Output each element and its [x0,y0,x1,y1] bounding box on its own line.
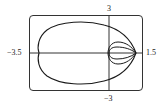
x-min-label: −3.5 [7,49,22,57]
plot-area [0,0,159,110]
y-min-label: −3 [104,95,113,103]
x-max-label: 1.5 [146,49,156,57]
y-max-label: 3 [107,5,111,13]
